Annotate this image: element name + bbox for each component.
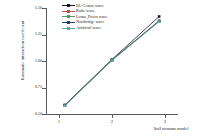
- x-axis-title: Soil stratum model: [136, 126, 206, 131]
- y-axis-title-holder: Kinematic interaction coefficient: [6, 20, 16, 100]
- series-artificial-wave: [64, 20, 161, 107]
- data-point: [64, 104, 67, 107]
- legend-square-icon: [67, 27, 70, 30]
- legend: EL-Centro wave Kobe wave Loma_Prieta wav…: [62, 3, 124, 31]
- x-tick-label-0: 1: [52, 119, 66, 124]
- chart-figure: 0.50 0.75 1.00 1.25 1.50 1 2 3 Kinematic…: [0, 0, 207, 139]
- legend-item-artificial-wave[interactable]: Artificial wave: [62, 25, 124, 31]
- legend-label-kobe-wave: Kobe wave: [75, 9, 95, 14]
- y-axis-title: Kinematic interaction coefficient: [20, 5, 25, 97]
- y-tick-label-4: 1.50: [22, 6, 42, 10]
- legend-label-artificial-wave: Artificial wave: [75, 26, 101, 31]
- x-tick-mark-0: [59, 114, 60, 118]
- data-point: [158, 20, 161, 23]
- y-tick-label-0: 0.50: [22, 112, 42, 116]
- y-tick-label-0-wrap: 0.50: [18, 112, 42, 117]
- x-tick-mark-1: [112, 114, 113, 118]
- data-point: [158, 15, 161, 18]
- legend-square-icon: [67, 10, 70, 13]
- legend-swatch-kobe-wave: [62, 9, 75, 14]
- series-line: [65, 22, 159, 106]
- y-tick-label-3: 1.25: [22, 32, 42, 36]
- y-tick-label-2: 1.00: [22, 59, 42, 63]
- legend-swatch-northridge-wave: [62, 20, 75, 25]
- legend-square-icon: [67, 4, 70, 7]
- data-point: [111, 59, 114, 62]
- legend-square-icon: [67, 15, 70, 18]
- y-tick-mark-0: [42, 114, 46, 115]
- y-tick-label-1: 0.75: [22, 85, 42, 89]
- legend-swatch-el-centro-wave: [62, 3, 75, 8]
- x-tick-mark-2: [165, 114, 166, 118]
- x-tick-label-1: 2: [105, 119, 119, 124]
- legend-swatch-artificial-wave: [62, 26, 75, 31]
- x-tick-label-2: 3: [158, 119, 172, 124]
- series-line: [65, 21, 159, 105]
- legend-square-icon: [67, 21, 70, 24]
- legend-swatch-loma-prieta-wave: [62, 14, 75, 19]
